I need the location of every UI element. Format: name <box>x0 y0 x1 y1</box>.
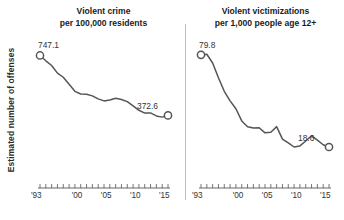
x-tick-label: '10 <box>291 191 302 200</box>
x-tick-label: '10 <box>130 191 141 200</box>
chart-panel-violent-victimizations: Violent victimizations per 1,000 people … <box>187 0 344 220</box>
line-chart-left <box>22 0 185 220</box>
y-axis-label: Estimated number of offenses <box>0 0 22 220</box>
x-tick-label: '05 <box>262 191 273 200</box>
x-tick-label: '15 <box>320 191 331 200</box>
x-tick-label: '00 <box>72 191 83 200</box>
x-tick-label: '93 <box>192 191 203 200</box>
x-tick-label: '00 <box>233 191 244 200</box>
data-value-label: 79.8 <box>199 40 215 50</box>
x-tick-label: '05 <box>101 191 112 200</box>
plot-area-right <box>187 0 344 220</box>
data-value-label: 372.6 <box>137 101 158 111</box>
line-chart-right <box>187 0 344 220</box>
data-value-label: 18.6 <box>298 133 314 143</box>
x-tick-label: '15 <box>159 191 170 200</box>
chart-panel-violent-crime: Violent crime per 100,000 residents '93'… <box>22 0 185 220</box>
data-value-label: 747.1 <box>38 40 59 50</box>
panel-divider <box>185 24 186 200</box>
plot-area-left <box>22 0 185 220</box>
x-tick-label: '93 <box>31 191 42 200</box>
chart-figure: Estimated number of offenses Violent cri… <box>0 0 344 220</box>
